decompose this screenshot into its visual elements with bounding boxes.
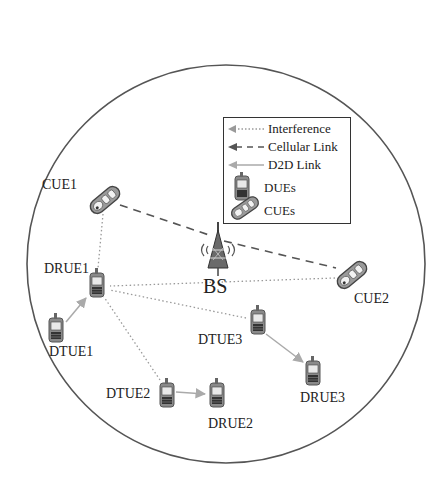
label-cue2: CUE2 bbox=[354, 292, 389, 306]
legend-item-interference: Interference bbox=[224, 121, 350, 137]
legend-label-d2d: D2D Link bbox=[268, 157, 321, 173]
d2d-dtue2-drue2 bbox=[176, 392, 205, 394]
legend-label-cues: CUEs bbox=[264, 203, 295, 219]
label-dtue1: DTUE1 bbox=[49, 345, 93, 359]
interference-cue1-drue1 bbox=[98, 214, 103, 268]
legend-label-cellular: Cellular Link bbox=[268, 139, 338, 155]
legend-label-interference: Interference bbox=[268, 121, 331, 137]
base-station-tower-icon bbox=[202, 222, 235, 276]
d2d-dtue1-drue1 bbox=[66, 298, 86, 322]
legend-label-dues: DUEs bbox=[264, 180, 296, 196]
d2d-links bbox=[66, 298, 303, 394]
diagram-canvas: CUE1 DRUE1 DTUE1 BS CUE2 DTUE3 DRUE3 DTU… bbox=[0, 0, 448, 487]
legend-item-d2d: D2D Link bbox=[224, 157, 350, 173]
legend-item-cellular: Cellular Link bbox=[224, 139, 350, 155]
dtue3-phone-icon bbox=[251, 305, 265, 334]
label-drue1: DRUE1 bbox=[44, 262, 89, 276]
legend: Interference Cellular Link D2D Link DU bbox=[223, 117, 351, 224]
label-drue3: DRUE3 bbox=[300, 391, 345, 405]
d2d-dtue3-drue3 bbox=[266, 334, 303, 362]
cue1-phone-icon bbox=[87, 184, 122, 217]
interference-dtue2-drue1 bbox=[104, 297, 160, 380]
dtue1-phone-icon bbox=[49, 313, 63, 342]
dtue2-phone-icon bbox=[160, 378, 174, 407]
label-cue1: CUE1 bbox=[42, 178, 77, 192]
drue1-phone-icon bbox=[90, 268, 104, 297]
dotted-arrow-icon bbox=[228, 124, 266, 134]
cue-phone-icon bbox=[228, 194, 262, 222]
cue2-phone-icon bbox=[334, 259, 369, 292]
label-drue2: DRUE2 bbox=[208, 417, 253, 431]
label-dtue3: DTUE3 bbox=[198, 333, 242, 347]
solid-arrow-icon bbox=[228, 160, 266, 170]
drue3-phone-icon bbox=[306, 356, 320, 385]
drue2-phone-icon bbox=[210, 378, 224, 407]
label-dtue2: DTUE2 bbox=[106, 387, 150, 401]
legend-item-cues: CUEs bbox=[224, 198, 350, 220]
network-diagram bbox=[0, 0, 448, 487]
label-bs: BS bbox=[203, 276, 227, 296]
dashed-arrow-icon bbox=[228, 142, 266, 152]
